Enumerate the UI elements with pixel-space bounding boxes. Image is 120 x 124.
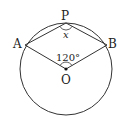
circle-diagram: P x A B 120° O bbox=[0, 0, 120, 124]
label-a: A bbox=[12, 37, 22, 51]
label-b: B bbox=[108, 37, 117, 51]
label-central-angle: 120° bbox=[56, 52, 80, 63]
label-o: O bbox=[61, 73, 71, 87]
label-x: x bbox=[63, 29, 69, 40]
label-p: P bbox=[61, 9, 69, 23]
center-point-o bbox=[64, 67, 67, 70]
